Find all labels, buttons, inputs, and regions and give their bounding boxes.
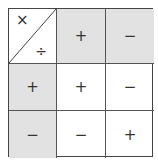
corner-cell: × ÷ xyxy=(9,9,57,64)
sign-rule-table: × ÷ + − + + − − − + xyxy=(8,8,153,157)
cell-plus-plus: + xyxy=(57,64,106,111)
row-header-minus: − xyxy=(9,111,57,158)
column-header-minus: − xyxy=(106,9,154,64)
divide-symbol: ÷ xyxy=(35,43,47,59)
cell-minus-plus: − xyxy=(57,111,106,158)
column-header-plus: + xyxy=(57,9,106,64)
cell-plus-minus: − xyxy=(106,64,154,111)
row-header-plus: + xyxy=(9,64,57,111)
cell-minus-minus: + xyxy=(106,111,154,158)
multiply-symbol: × xyxy=(16,11,29,29)
